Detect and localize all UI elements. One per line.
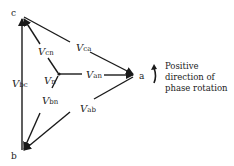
label-vab: Vab bbox=[80, 103, 96, 114]
annotation-line-3: phase rotation bbox=[165, 83, 228, 93]
phasor-diagram: c b a Vca Vcn Vbc Vn Van Vbn Vab Positiv… bbox=[0, 0, 234, 166]
rotation-arrow-icon bbox=[154, 68, 156, 83]
neutral-point bbox=[57, 72, 60, 75]
label-vbn: Vbn bbox=[42, 95, 59, 106]
rotation-arrowhead-icon bbox=[151, 64, 157, 70]
line-ab bbox=[94, 77, 133, 99]
annotation-line-1: Positive bbox=[165, 61, 199, 71]
line-ca-2 bbox=[90, 52, 133, 74]
vertex-label-a: a bbox=[139, 71, 145, 81]
label-vcn: Vcn bbox=[38, 46, 54, 57]
line-cn-2 bbox=[24, 19, 40, 44]
label-vbc: Vbc bbox=[12, 78, 28, 89]
vertex-label-c: c bbox=[11, 8, 16, 18]
line-ab-2 bbox=[24, 112, 70, 150]
annotation-line-2: direction of bbox=[165, 72, 216, 82]
vertex-label-b: b bbox=[11, 151, 17, 161]
label-vca: Vca bbox=[76, 42, 91, 53]
label-vn: Vn bbox=[44, 75, 56, 86]
label-van: Van bbox=[86, 69, 102, 80]
line-cn bbox=[48, 58, 58, 73]
